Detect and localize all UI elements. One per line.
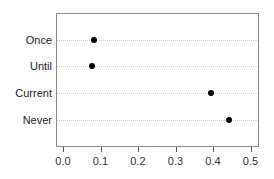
gridline xyxy=(57,93,258,94)
gridline xyxy=(57,66,258,67)
x-tick-label: 0.4 xyxy=(205,155,220,167)
x-tick xyxy=(176,147,177,152)
x-tick-label: 0.5 xyxy=(243,155,258,167)
x-tick-label: 0.0 xyxy=(55,155,70,167)
plot-area xyxy=(56,13,259,147)
category-label: Once xyxy=(26,34,52,46)
dot-chart: OnceUntilCurrentNever 0.00.10.20.30.40.5 xyxy=(0,0,274,179)
category-label: Until xyxy=(30,60,52,72)
x-tick xyxy=(63,147,64,152)
x-tick xyxy=(251,147,252,152)
x-tick xyxy=(213,147,214,152)
data-point xyxy=(89,63,95,69)
x-tick-label: 0.1 xyxy=(93,155,108,167)
category-label: Current xyxy=(15,87,52,99)
x-tick-label: 0.3 xyxy=(168,155,183,167)
category-label: Never xyxy=(23,114,52,126)
gridline xyxy=(57,40,258,41)
x-tick-label: 0.2 xyxy=(130,155,145,167)
x-tick xyxy=(138,147,139,152)
x-tick xyxy=(101,147,102,152)
